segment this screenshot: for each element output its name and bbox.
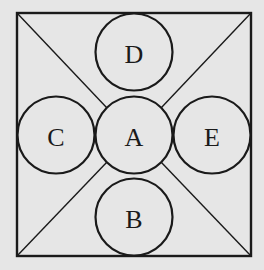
circle-c: C [18,97,95,174]
circle-e: E [174,97,251,174]
diagonal-top-right [161,13,251,108]
label-b: B [125,205,142,234]
diagonal-bottom-left [17,162,107,256]
label-a: A [125,123,144,152]
circle-d: D [96,14,173,91]
label-d: D [125,40,144,69]
diagonal-bottom-right [161,162,251,256]
diagonal-top-left [17,13,107,108]
label-c: C [47,123,64,152]
geometry-diagram: D C E B A [0,0,264,270]
label-e: E [204,123,220,152]
circle-b: B [96,179,173,256]
circle-a: A [96,97,173,174]
